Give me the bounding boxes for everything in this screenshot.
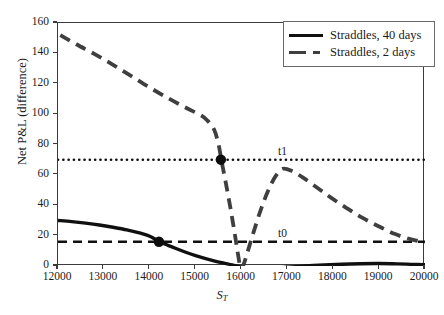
x-tick-mark [102, 265, 103, 269]
x-tick-mark [240, 265, 241, 269]
y-tick-label: 0 [5, 259, 49, 270]
y-tick-label: 60 [5, 168, 49, 179]
x-tick-mark [332, 265, 333, 269]
y-tick-mark [53, 143, 57, 144]
y-tick-label: 140 [5, 46, 49, 57]
y-tick-mark [53, 204, 57, 205]
y-tick-label: 20 [5, 229, 49, 240]
y-tick-mark [53, 234, 57, 235]
x-axis-title-subscript: T [223, 293, 228, 303]
series-line-1 [60, 35, 425, 266]
y-tick-mark [53, 173, 57, 174]
legend-label-1: Straddles, 2 days [330, 46, 415, 59]
x-tick-mark [194, 265, 195, 269]
data-marker-0 [154, 237, 164, 247]
data-series [58, 35, 425, 266]
y-tick-mark [53, 52, 57, 53]
x-tick-mark [423, 265, 424, 269]
legend-item-0: Straddles, 40 days [289, 27, 428, 44]
x-axis-title: ST [0, 288, 444, 303]
y-tick-label: 80 [5, 138, 49, 149]
x-tick-label: 20000 [394, 271, 444, 282]
x-tick-mark [378, 265, 379, 269]
x-tick-mark [286, 265, 287, 269]
y-tick-label: 160 [5, 16, 49, 27]
legend-swatch-solid [289, 30, 323, 41]
data-marker-1 [216, 154, 226, 164]
data-markers [154, 154, 226, 246]
x-tick-mark [56, 265, 57, 269]
y-tick-label: 120 [5, 77, 49, 88]
y-tick-label: 40 [5, 198, 49, 209]
y-tick-label: 100 [5, 107, 49, 118]
legend-swatch-dashed [289, 47, 323, 58]
x-tick-mark [148, 265, 149, 269]
series-line-0 [58, 220, 425, 266]
legend-item-1: Straddles, 2 days [289, 44, 428, 61]
reference-lines [58, 160, 425, 242]
chart-figure: Net P&L (difference) ST 0204060801001201… [0, 0, 444, 315]
annotation-t0: t0 [278, 228, 287, 239]
legend-label-0: Straddles, 40 days [330, 29, 421, 42]
y-tick-mark [53, 21, 57, 22]
y-tick-mark [53, 82, 57, 83]
y-tick-mark [53, 113, 57, 114]
chart-legend: Straddles, 40 days Straddles, 2 days [283, 21, 435, 67]
annotation-t1: t1 [278, 146, 287, 157]
